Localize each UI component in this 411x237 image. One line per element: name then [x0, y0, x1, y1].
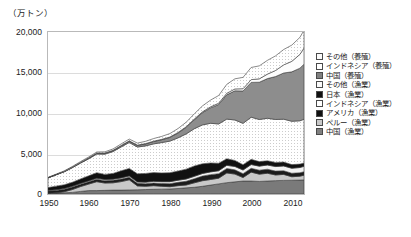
legend-swatch: [316, 119, 323, 126]
legend-swatch: [316, 81, 323, 88]
legend-item: その他（養殖）: [316, 53, 408, 60]
legend-label: ペルー（漁業）: [326, 119, 375, 126]
x-tick-1980: 1980: [151, 198, 191, 208]
x-tick-2010: 2010: [273, 198, 313, 208]
legend-item: ペルー（漁業）: [316, 119, 408, 126]
y-tick-20000: 20,000: [4, 27, 42, 37]
legend-item: 中国（漁業）: [316, 128, 408, 135]
x-tick-1990: 1990: [192, 198, 232, 208]
legend-swatch: [316, 91, 323, 98]
legend-label: 日本（漁業）: [326, 91, 368, 98]
legend-swatch: [316, 100, 323, 107]
y-tick-10000: 10,000: [4, 108, 42, 118]
chart-legend: その他（養殖）インドネシア（養殖）中国（養殖）その他（漁業）日本（漁業）インドネ…: [316, 53, 408, 136]
legend-label: アメリカ（漁業）: [326, 109, 382, 116]
legend-swatch: [316, 53, 323, 60]
y-tick-5000: 5,000: [4, 149, 42, 159]
legend-swatch: [316, 63, 323, 70]
x-tick-2000: 2000: [232, 198, 272, 208]
stacked-area-series: [48, 32, 304, 194]
legend-item: 中国（養殖）: [316, 72, 408, 79]
legend-label: インドネシア（漁業）: [326, 100, 396, 107]
x-tick-1960: 1960: [69, 198, 109, 208]
legend-label: インドネシア（養殖）: [326, 62, 396, 69]
legend-label: その他（漁業）: [326, 81, 375, 88]
legend-label: 中国（漁業）: [326, 128, 368, 135]
legend-item: アメリカ（漁業）: [316, 109, 408, 116]
legend-swatch: [316, 72, 323, 79]
x-tick-1970: 1970: [110, 198, 150, 208]
y-tick-15000: 15,000: [4, 67, 42, 77]
legend-item: インドネシア（養殖）: [316, 62, 408, 69]
plot-area: [47, 31, 305, 195]
legend-swatch: [316, 110, 323, 117]
legend-label: その他（養殖）: [326, 53, 375, 60]
legend-item: インドネシア（漁業）: [316, 100, 408, 107]
chart-container: （万トン） 20,000 15,000 10,000 5,000 0 1950 …: [0, 0, 411, 237]
legend-swatch: [316, 128, 323, 135]
legend-label: 中国（養殖）: [326, 72, 368, 79]
legend-item: 日本（漁業）: [316, 91, 408, 98]
x-tick-1950: 1950: [29, 198, 69, 208]
y-axis-unit-label: （万トン）: [8, 6, 53, 18]
legend-item: その他（漁業）: [316, 81, 408, 88]
